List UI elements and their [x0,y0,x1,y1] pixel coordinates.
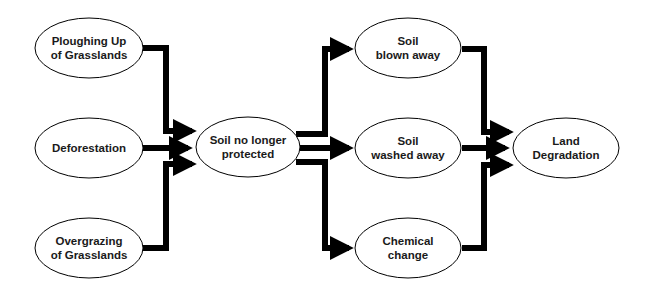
edge-soil-unprotected-to-blown [296,49,349,134]
node-blown-shape [355,18,461,78]
node-washed-shape [355,118,461,178]
node-soil-unprotected-shape [196,117,300,177]
diagram-graphics [0,0,651,293]
edge-chemical-to-land-degradation [462,165,509,248]
land-degradation-flowchart: Ploughing Up of Grasslands Deforestation… [0,0,651,293]
edge-soil-unprotected-to-chemical [296,162,349,248]
edge-ploughing-to-soil-unprotected [143,48,192,131]
node-deforestation-shape [35,118,143,178]
edge-blown-to-land-degradation [462,49,509,132]
node-chemical-shape [355,218,461,278]
edge-overgrazing-to-soil-unprotected [143,164,192,248]
node-overgrazing-shape [35,218,143,278]
node-land-degradation-shape [513,118,619,178]
node-ploughing-shape [35,18,143,78]
